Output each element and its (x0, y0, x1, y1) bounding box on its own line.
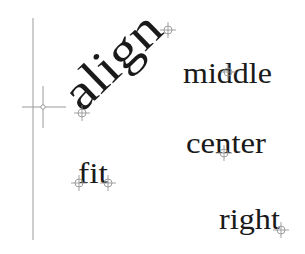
label-middle: middle (183, 56, 272, 89)
label-right: right (219, 202, 281, 235)
text-justification-diagram: align middle center fit right (0, 0, 305, 254)
insertion-crosshair-icon (22, 86, 66, 128)
label-align: align (51, 0, 173, 121)
label-center: center (186, 126, 266, 159)
